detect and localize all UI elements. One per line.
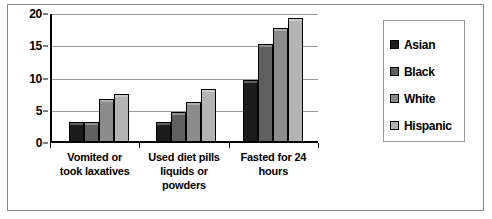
y-axis: 20 15 10 5 0 (18, 14, 50, 143)
legend-label-hispanic: Hispanic (404, 119, 452, 133)
chart-figure: 20 15 10 5 0 Vomited or took laxatives U… (0, 0, 492, 219)
y-tick-label-5: 5 (36, 104, 42, 118)
category-label-1-line1: Used diet pills (148, 151, 220, 163)
category-label-2: Fasted for 24 hours (229, 150, 318, 192)
legend-item-hispanic[interactable]: Hispanic (390, 112, 464, 139)
bar-1-2[interactable] (186, 102, 201, 141)
category-label-2-line1: Fasted for 24 (240, 151, 306, 163)
legend-item-white[interactable]: White (390, 85, 464, 112)
category-label-1-line2: liquids or (160, 165, 208, 177)
y-tick-label-10: 10 (29, 72, 42, 86)
bar-2-2[interactable] (273, 28, 288, 141)
bar-1-1[interactable] (171, 112, 186, 141)
x-tick-2 (229, 143, 230, 148)
x-tick-3 (318, 143, 319, 148)
plot-panel (50, 14, 318, 143)
bar-2-0[interactable] (243, 80, 258, 141)
bar-2-1[interactable] (258, 44, 273, 141)
x-axis-category-labels: Vomited or took laxatives Used diet pill… (50, 150, 318, 192)
bar-group-2 (243, 14, 303, 141)
y-tick-mark-10 (43, 78, 48, 79)
y-tick-mark-15 (43, 46, 48, 47)
category-label-0-line1: Vomited or (67, 151, 122, 163)
legend-item-asian[interactable]: Asian (390, 31, 464, 58)
y-tick-label-15: 15 (29, 39, 42, 53)
legend-swatch-icon-black (390, 67, 399, 76)
bar-group-1 (156, 14, 216, 141)
legend-label-white: White (404, 92, 435, 106)
bar-0-2[interactable] (99, 99, 114, 141)
category-label-0: Vomited or took laxatives (50, 150, 139, 192)
y-tick-label-0: 0 (36, 136, 42, 150)
bar-1-0[interactable] (156, 122, 171, 141)
bar-group-0 (69, 14, 129, 141)
bar-2-3[interactable] (288, 18, 303, 141)
y-tick-label-20: 20 (29, 7, 42, 21)
category-label-1: Used diet pills liquids or powders (139, 150, 228, 192)
bar-0-3[interactable] (114, 94, 129, 141)
x-tick-0 (50, 143, 51, 148)
category-label-0-line2: took laxatives (60, 165, 130, 177)
x-axis-ticks (50, 143, 318, 148)
legend-swatch-icon-white (390, 94, 399, 103)
category-label-1-line3: powders (162, 179, 206, 191)
y-tick-mark-0 (43, 143, 48, 144)
legend-swatch-icon-hispanic (390, 121, 399, 130)
category-label-2-line2: hours (259, 165, 289, 177)
bar-1-3[interactable] (201, 89, 216, 141)
plot-area: 20 15 10 5 0 Vomited or took laxatives U… (18, 14, 328, 204)
bar-groups (52, 14, 318, 141)
legend-item-black[interactable]: Black (390, 58, 464, 85)
bar-0-0[interactable] (69, 122, 84, 141)
legend-label-black: Black (404, 65, 435, 79)
legend: AsianBlackWhiteHispanic (383, 20, 465, 142)
legend-swatch-icon-asian (390, 40, 399, 49)
x-tick-1 (139, 143, 140, 148)
bar-0-1[interactable] (84, 122, 99, 141)
y-tick-mark-5 (43, 110, 48, 111)
legend-label-asian: Asian (404, 38, 435, 52)
y-tick-mark-20 (43, 14, 48, 15)
